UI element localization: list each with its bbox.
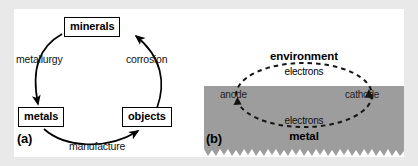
cathode-label: cathode <box>345 89 379 100</box>
edge-label-corrosion: corrosion <box>126 53 167 65</box>
node-metals[interactable]: metals <box>18 107 64 127</box>
node-minerals-label: minerals <box>70 20 114 32</box>
edge-minerals-to-metals <box>36 34 62 104</box>
node-objects[interactable]: objects <box>122 107 172 127</box>
panel-b: environment electrons anode cathode elec… <box>204 9 404 157</box>
metal-label: metal <box>204 130 404 142</box>
panel-a: minerals metals objects metallurgy corro… <box>14 9 204 157</box>
anode-label: anode <box>220 89 247 100</box>
node-objects-label: objects <box>128 110 166 122</box>
electrons-label-bottom: electrons <box>204 115 404 126</box>
node-metals-label: metals <box>24 110 58 122</box>
panel-a-tag: (a) <box>17 131 32 146</box>
node-minerals[interactable]: minerals <box>64 17 120 37</box>
environment-label: environment <box>204 50 404 62</box>
edge-label-manufacture: manufacture <box>69 140 125 152</box>
electrons-label-top: electrons <box>204 66 404 77</box>
figure-container: minerals metals objects metallurgy corro… <box>0 0 418 166</box>
edge-objects-to-minerals <box>136 36 161 108</box>
panel-b-tag: (b) <box>206 131 222 146</box>
edge-label-metallurgy: metallurgy <box>16 53 62 65</box>
